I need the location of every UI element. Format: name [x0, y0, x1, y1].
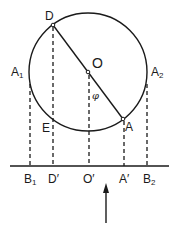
label-E: E	[42, 121, 50, 135]
geometry-diagram: D O A E A1 A2 φ B1 D′ O′ A′ B2	[0, 0, 177, 231]
label-phi: φ	[92, 90, 99, 101]
label-B1: B1	[24, 172, 37, 187]
label-A: A	[125, 120, 133, 134]
label-D: D	[45, 9, 54, 23]
label-Aprime: A′	[119, 172, 130, 186]
label-Dprime: D′	[48, 172, 60, 186]
point-O-marker	[86, 70, 90, 74]
label-Oprime: O′	[83, 172, 95, 186]
point-D-marker	[51, 23, 55, 27]
label-A1: A1	[11, 65, 24, 80]
projection-lines	[30, 27, 147, 166]
label-B2: B2	[143, 172, 156, 187]
label-O: O	[92, 55, 103, 71]
up-arrow-icon	[103, 183, 109, 223]
label-A2: A2	[151, 65, 164, 80]
